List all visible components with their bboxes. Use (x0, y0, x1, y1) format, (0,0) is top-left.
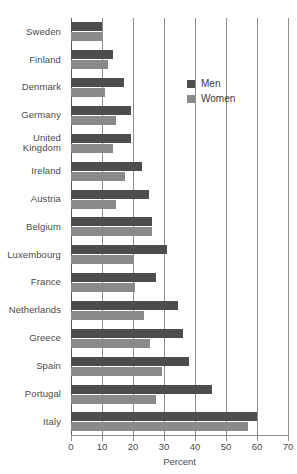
x-tick-label: 20 (128, 441, 139, 452)
bar-men (71, 357, 189, 366)
category-label: Austria (0, 185, 66, 213)
bar-row (71, 297, 288, 325)
x-axis-tick-labels: 010203040506070 (71, 441, 288, 455)
bar-women (71, 60, 108, 69)
legend-swatch-women-icon (187, 95, 195, 103)
bar-men (71, 50, 113, 59)
category-label: Finland (0, 46, 66, 74)
x-tick-label: 50 (221, 441, 232, 452)
gridline (288, 18, 289, 436)
bar-men (71, 412, 257, 421)
bar-men (71, 162, 142, 171)
category-label: Luxembourg (0, 241, 66, 269)
bar-rows (71, 18, 288, 436)
bar-women (71, 422, 248, 431)
bar-women (71, 367, 162, 376)
x-tick-label: 10 (97, 441, 108, 452)
bar-women (71, 339, 150, 348)
bar-men (71, 385, 212, 394)
category-label: United Kingdom (0, 129, 66, 157)
category-label: Greece (0, 324, 66, 352)
bar-men (71, 78, 124, 87)
bar-row (71, 74, 288, 102)
bar-row (71, 18, 288, 46)
bar-women (71, 200, 116, 209)
bar-men (71, 106, 131, 115)
category-label: Germany (0, 102, 66, 130)
bar-men (71, 22, 102, 31)
x-tick-label: 70 (283, 441, 294, 452)
bar-women (71, 172, 125, 181)
bar-row (71, 241, 288, 269)
category-label: Netherlands (0, 297, 66, 325)
bar-women (71, 32, 102, 41)
category-label: Belgium (0, 213, 66, 241)
category-label: Sweden (0, 18, 66, 46)
x-tick-label: 0 (68, 441, 73, 452)
bar-women (71, 311, 144, 320)
legend-label: Men (201, 78, 220, 89)
bar-men (71, 190, 149, 199)
bar-men (71, 329, 183, 338)
category-label: Denmark (0, 74, 66, 102)
bar-row (71, 157, 288, 185)
legend-label: Women (201, 93, 235, 104)
bar-row (71, 46, 288, 74)
legend-item-men: Men (187, 76, 235, 91)
bar-men (71, 134, 131, 143)
bar-men (71, 245, 167, 254)
x-tick-label: 40 (190, 441, 201, 452)
category-label: Portugal (0, 380, 66, 408)
bar-men (71, 301, 178, 310)
bar-row (71, 185, 288, 213)
x-axis-title: Percent (71, 456, 288, 467)
x-tick-label: 30 (159, 441, 170, 452)
bar-men (71, 273, 156, 282)
bar-row (71, 269, 288, 297)
category-label: Spain (0, 352, 66, 380)
bar-row (71, 408, 288, 436)
category-label: France (0, 269, 66, 297)
bar-row (71, 213, 288, 241)
bar-row (71, 352, 288, 380)
chart-legend: MenWomen (187, 76, 235, 106)
bar-women (71, 283, 135, 292)
category-axis-labels: SwedenFinlandDenmarkGermanyUnited Kingdo… (0, 18, 66, 436)
bar-chart: SwedenFinlandDenmarkGermanyUnited Kingdo… (0, 0, 297, 474)
bar-row (71, 324, 288, 352)
legend-item-women: Women (187, 91, 235, 106)
bar-row (71, 129, 288, 157)
bar-women (71, 88, 105, 97)
category-label: Italy (0, 408, 66, 436)
bar-row (71, 380, 288, 408)
bar-men (71, 217, 152, 226)
bar-women (71, 395, 156, 404)
bar-women (71, 255, 133, 264)
bar-women (71, 116, 116, 125)
plot-area (71, 18, 288, 436)
category-label: Ireland (0, 157, 66, 185)
bar-row (71, 102, 288, 130)
bar-women (71, 227, 152, 236)
bar-women (71, 144, 113, 153)
x-tick-label: 60 (252, 441, 263, 452)
legend-swatch-men-icon (187, 80, 195, 88)
